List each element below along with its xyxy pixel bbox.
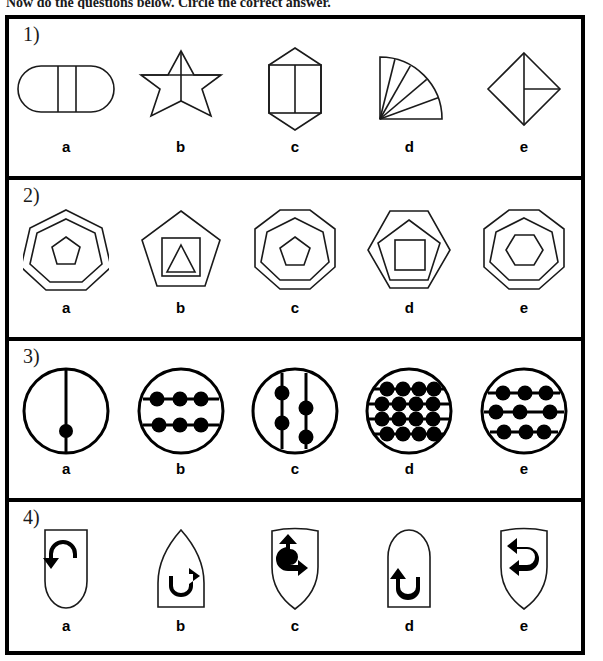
option-1e[interactable]: e	[467, 41, 581, 179]
question-block-1: 1) a	[9, 19, 581, 180]
option-label-3c: c	[291, 461, 299, 477]
option-4d[interactable]: d	[352, 524, 466, 652]
shape-shield-up-left-arrow-icon	[467, 524, 581, 616]
shape-round-bottom-tag-arrow-icon	[9, 524, 123, 616]
shape-heptagon-heptagon-pentagon-icon	[9, 202, 123, 298]
question-4-options: a b	[9, 524, 581, 652]
shape-circle-four-lines-sixteen-dots-icon	[352, 363, 466, 459]
instruction-text: Now do the questions below. Circle the c…	[6, 0, 566, 9]
option-4c[interactable]: c	[238, 524, 352, 652]
option-2a[interactable]: a	[9, 202, 123, 340]
shape-circle-three-lines-nine-dots-icon	[467, 363, 581, 459]
option-1d[interactable]: d	[352, 41, 466, 179]
question-block-4: 4) a	[9, 502, 581, 652]
option-4b[interactable]: b	[123, 524, 237, 652]
option-3e[interactable]: e	[467, 363, 581, 501]
question-block-3: 3) a	[9, 341, 581, 502]
option-label-3a: a	[62, 461, 70, 477]
option-1b[interactable]: b	[123, 41, 237, 179]
shape-circle-two-vertical-lines-four-dots-icon	[238, 363, 352, 459]
option-3a[interactable]: a	[9, 363, 123, 501]
option-label-1c: c	[291, 139, 299, 155]
option-label-4b: b	[176, 618, 185, 634]
shape-octagon-heptagon-pentagon-icon	[238, 202, 352, 298]
shape-six-pointed-star-icon	[123, 41, 237, 137]
option-label-1a: a	[62, 139, 70, 155]
shape-circle-one-line-one-dot-icon	[9, 363, 123, 459]
question-3-options: a b	[9, 363, 581, 501]
option-4e[interactable]: e	[467, 524, 581, 652]
shape-round-top-arrow-icon	[352, 524, 466, 616]
question-2-options: a b	[9, 202, 581, 340]
shape-diamond-divided-icon	[467, 41, 581, 137]
option-label-2c: c	[291, 300, 299, 316]
shape-quarter-circle-fan-icon	[352, 41, 466, 137]
option-label-2a: a	[62, 300, 70, 316]
option-2d[interactable]: d	[352, 202, 466, 340]
option-4a[interactable]: a	[9, 524, 123, 652]
option-label-1d: d	[405, 139, 414, 155]
option-label-3e: e	[520, 461, 528, 477]
question-block-2: 2) a	[9, 180, 581, 341]
option-2b[interactable]: b	[123, 202, 237, 340]
option-1c[interactable]: c	[238, 41, 352, 179]
option-2c[interactable]: c	[238, 202, 352, 340]
option-label-3d: d	[405, 461, 414, 477]
option-3c[interactable]: c	[238, 363, 352, 501]
option-label-4e: e	[520, 618, 528, 634]
option-3b[interactable]: b	[123, 363, 237, 501]
shape-hexagon-pentagon-square-icon	[352, 202, 466, 298]
shape-pentagon-square-triangle-icon	[123, 202, 237, 298]
option-1a[interactable]: a	[9, 41, 123, 179]
option-label-4c: c	[291, 618, 299, 634]
option-label-2d: d	[405, 300, 414, 316]
shape-pointed-top-arrow-icon	[123, 524, 237, 616]
option-2e[interactable]: e	[467, 202, 581, 340]
option-label-2b: b	[176, 300, 185, 316]
option-label-3b: b	[176, 461, 185, 477]
shape-hexagonal-crystal-icon	[238, 41, 352, 137]
shape-circle-two-lines-six-dots-icon	[123, 363, 237, 459]
shape-stadium-divided-icon	[9, 41, 123, 137]
option-label-4a: a	[62, 618, 70, 634]
option-3d[interactable]: d	[352, 363, 466, 501]
shape-octagon-heptagon-hexagon-icon	[467, 202, 581, 298]
question-1-options: a b	[9, 41, 581, 179]
option-label-1e: e	[520, 139, 528, 155]
option-label-4d: d	[405, 618, 414, 634]
option-label-2e: e	[520, 300, 528, 316]
shape-shield-right-arrow-icon	[238, 524, 352, 616]
option-label-1b: b	[176, 139, 185, 155]
question-sheet: 1) a	[5, 15, 585, 655]
